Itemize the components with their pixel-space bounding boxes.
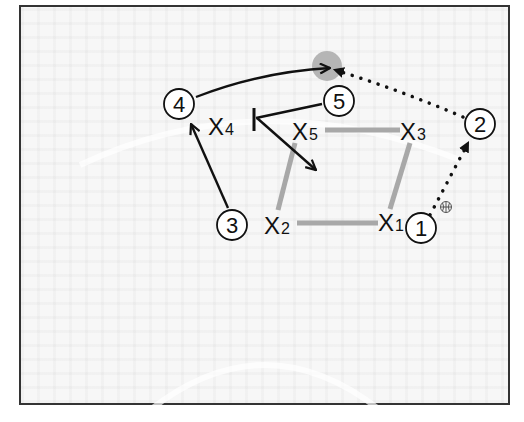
target-spot [312,51,342,81]
connector-x5-x2 [278,143,295,210]
player-4-label: 4 [173,92,185,117]
player-2[interactable]: 2 [465,109,495,139]
defender-x2[interactable]: X 2 [264,212,290,239]
defender-x1-sub: 1 [395,217,404,234]
pass-2-to-target [335,70,463,117]
defender-x4-sub: 4 [225,121,234,138]
defender-x3-sub: 3 [417,126,426,143]
player-5[interactable]: 5 [324,86,354,116]
defender-x5-label: X [292,118,308,145]
player-4[interactable]: 4 [164,89,194,119]
player-3-label: 3 [226,213,238,238]
defender-x2-sub: 2 [281,220,290,237]
connector-x3-x1 [390,143,410,209]
screen-5 [256,104,322,118]
defender-x1-label: X [378,209,394,236]
play-diagram: 1 2 3 4 5 X 1 X 2 X 3 X 4 X 5 [0,0,524,422]
cut-4-to-target [196,68,330,97]
player-2-label: 2 [474,112,486,137]
defender-x2-label: X [264,212,280,239]
defender-x4-label: X [208,113,224,140]
basketball-icon [441,202,452,213]
defender-x4[interactable]: X 4 [208,113,234,140]
defender-x3-label: X [400,118,416,145]
defender-x5-sub: 5 [309,126,318,143]
player-1-label: 1 [415,216,427,241]
player-5-label: 5 [333,89,345,114]
player-3[interactable]: 3 [217,210,247,240]
defender-x3[interactable]: X 3 [400,118,426,145]
defender-x1[interactable]: X 1 [378,209,404,236]
player-1[interactable]: 1 [406,213,436,243]
